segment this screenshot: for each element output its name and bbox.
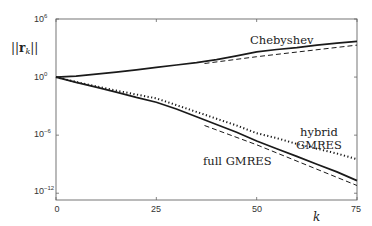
y-tick-m12-exp: −12	[44, 185, 55, 191]
x-axis-label: k	[313, 210, 320, 224]
svg-text:106: 106	[34, 13, 48, 24]
label-full-gmres: full GMRES	[203, 154, 272, 168]
x-tick-25: 25	[151, 204, 161, 214]
label-hybrid-line2: GMRES	[296, 138, 342, 152]
x-tick-75: 75	[351, 204, 361, 214]
y-tick-m12-base: 10	[34, 186, 44, 196]
y-tick-m6-exp: −6	[44, 128, 52, 134]
y-tick-6-exp: 6	[44, 13, 48, 19]
y-axis-label: ||rk||	[11, 41, 38, 56]
y-tick-6-base: 10	[34, 14, 44, 24]
label-chebyshev: Chebyshev	[250, 33, 314, 47]
svg-text:10−6: 10−6	[34, 128, 52, 139]
y-tick-0-exp: 0	[44, 71, 48, 77]
series-chebyshev-asymptote	[205, 45, 358, 63]
svg-text:10−12: 10−12	[34, 185, 55, 196]
x-tick-50: 50	[252, 204, 262, 214]
x-tick-0: 0	[54, 204, 59, 214]
convergence-chart: 106 100 10−6 10−12 0 25 50 75 ||rk|| k C…	[0, 0, 372, 226]
y-tick-0-base: 10	[34, 72, 44, 82]
svg-text:100: 100	[34, 71, 48, 82]
label-hybrid-line1: hybrid	[300, 125, 338, 139]
y-tick-m6-base: 10	[34, 129, 44, 139]
